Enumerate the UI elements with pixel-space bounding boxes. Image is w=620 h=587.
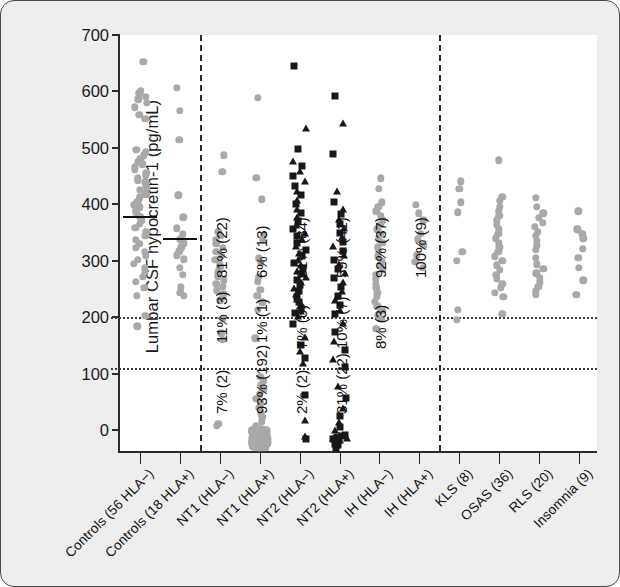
data-point bbox=[574, 254, 581, 261]
y-tick-mark bbox=[112, 429, 120, 431]
pct-annotation: 92% (37) bbox=[372, 217, 389, 278]
data-point bbox=[301, 417, 309, 424]
data-point bbox=[254, 278, 261, 285]
data-point bbox=[296, 168, 304, 175]
x-tick-mark bbox=[180, 451, 181, 464]
data-point bbox=[131, 166, 138, 173]
data-point bbox=[180, 256, 187, 263]
data-point bbox=[532, 246, 539, 253]
pct-annotation: 7% (2) bbox=[213, 369, 230, 413]
pct-annotation: 8% (3) bbox=[372, 304, 389, 348]
data-point bbox=[254, 94, 261, 101]
data-point bbox=[457, 198, 464, 205]
y-tick-label: 500 bbox=[56, 138, 120, 157]
x-tick-mark bbox=[140, 451, 141, 464]
data-point bbox=[491, 289, 498, 296]
data-point bbox=[575, 264, 582, 271]
y-tick-mark bbox=[112, 147, 120, 149]
data-point bbox=[457, 178, 464, 185]
data-point bbox=[220, 152, 227, 159]
data-point bbox=[454, 209, 461, 216]
x-tick-mark bbox=[579, 451, 580, 464]
data-point bbox=[339, 119, 347, 126]
data-point bbox=[499, 293, 506, 300]
y-tick-label: 700 bbox=[56, 26, 120, 45]
data-point bbox=[294, 146, 301, 153]
data-point bbox=[377, 175, 384, 182]
pct-annotation: 11% (3) bbox=[213, 291, 230, 342]
reference-line-200 bbox=[111, 317, 597, 319]
data-point bbox=[412, 201, 419, 208]
x-tick-mark bbox=[459, 451, 460, 464]
y-tick-label: 0 bbox=[56, 421, 120, 440]
data-point bbox=[173, 84, 180, 91]
data-point bbox=[219, 168, 226, 175]
data-point bbox=[173, 224, 180, 231]
y-axis-title: Lumbar CSF hypocretin-1 (pg/mL) bbox=[143, 17, 162, 437]
pct-annotation: 81% (22) bbox=[213, 217, 230, 278]
data-point bbox=[580, 276, 587, 283]
data-point bbox=[176, 264, 183, 271]
pct-annotation: 7% (6) bbox=[293, 304, 310, 348]
data-point bbox=[289, 157, 297, 164]
data-point bbox=[456, 185, 463, 192]
data-point bbox=[330, 434, 338, 441]
pct-annotation: 31% (22) bbox=[333, 353, 350, 414]
data-point bbox=[134, 176, 141, 183]
pct-annotation: 1% (1) bbox=[253, 299, 270, 343]
y-tick-mark bbox=[112, 203, 120, 205]
data-point bbox=[575, 208, 582, 215]
data-point bbox=[299, 359, 307, 366]
y-tick-mark bbox=[112, 34, 120, 36]
group-separator bbox=[439, 35, 441, 451]
data-point bbox=[180, 214, 187, 221]
x-tick-mark bbox=[499, 451, 500, 464]
data-point bbox=[331, 199, 338, 206]
y-tick-label: 400 bbox=[56, 195, 120, 214]
data-point bbox=[301, 432, 309, 439]
pct-annotation: 2% (2) bbox=[293, 369, 310, 413]
data-point bbox=[133, 292, 140, 299]
data-point bbox=[289, 173, 296, 180]
median-line bbox=[163, 238, 197, 240]
data-point bbox=[179, 271, 186, 278]
data-point bbox=[459, 248, 466, 255]
x-tick-mark bbox=[379, 451, 380, 464]
y-tick-label: 100 bbox=[56, 364, 120, 383]
x-tick-mark bbox=[300, 451, 301, 464]
data-point bbox=[175, 192, 182, 199]
y-tick-mark bbox=[112, 373, 120, 375]
data-point bbox=[491, 253, 498, 260]
data-point bbox=[301, 178, 309, 185]
data-point bbox=[533, 203, 540, 210]
data-point bbox=[454, 306, 461, 313]
data-point bbox=[453, 257, 460, 264]
pct-annotation: 59% (41) bbox=[333, 217, 350, 278]
data-point bbox=[132, 244, 139, 251]
pct-annotation: 93% (192) bbox=[253, 344, 270, 413]
data-point bbox=[132, 224, 139, 231]
data-point bbox=[258, 196, 265, 203]
data-point bbox=[132, 278, 139, 285]
data-point bbox=[176, 107, 183, 114]
data-point bbox=[131, 104, 138, 111]
y-tick-label: 300 bbox=[56, 251, 120, 270]
reference-line-110 bbox=[111, 368, 597, 370]
pct-annotation: 10% (7) bbox=[333, 296, 350, 349]
y-tick-mark bbox=[112, 90, 120, 92]
data-point bbox=[495, 157, 502, 164]
x-tick-mark bbox=[340, 451, 341, 464]
x-tick-mark bbox=[539, 451, 540, 464]
pct-annotation: 6% (13) bbox=[253, 225, 270, 278]
data-point bbox=[375, 185, 382, 192]
y-tick-mark bbox=[112, 260, 120, 262]
data-point bbox=[253, 174, 260, 181]
data-point bbox=[213, 422, 220, 429]
data-point bbox=[290, 63, 297, 70]
data-point bbox=[135, 96, 142, 103]
data-point bbox=[539, 219, 546, 226]
median-line bbox=[123, 216, 157, 218]
data-point bbox=[497, 284, 504, 291]
pct-annotation: 100% (9) bbox=[412, 217, 429, 278]
data-point bbox=[133, 146, 140, 153]
